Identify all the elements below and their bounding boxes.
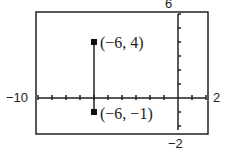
ymax-label: 6	[165, 0, 172, 10]
graph-window	[0, 0, 226, 157]
point-label: (−6, 4)	[100, 35, 144, 51]
ymin-label: −2	[168, 137, 183, 150]
xmin-label: −10	[6, 91, 28, 104]
xmax-label: 2	[213, 91, 220, 104]
point-marker	[91, 109, 97, 115]
point-label: (−6, −1)	[100, 106, 153, 122]
point-marker	[91, 39, 97, 45]
